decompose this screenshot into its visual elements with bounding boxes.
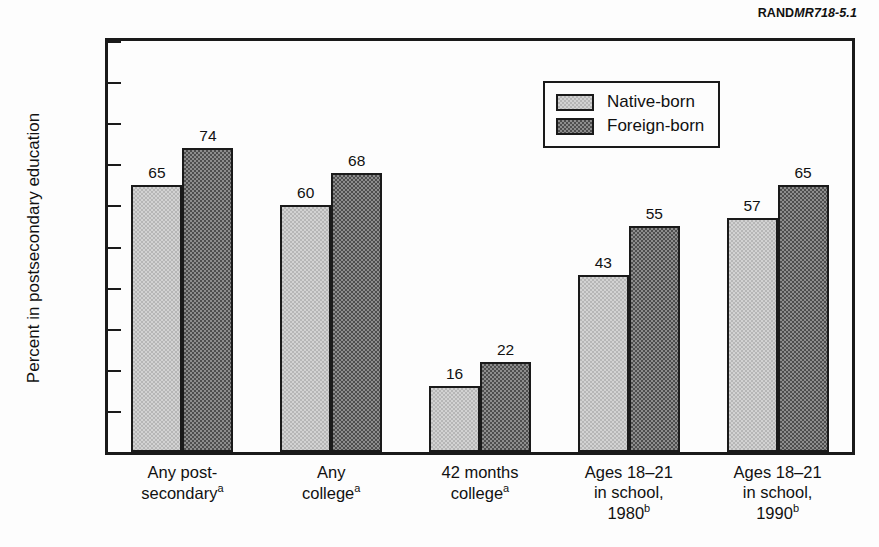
bar-value-label: 22	[466, 342, 545, 358]
plot-area: 1009080706050403020100 65746068162243555…	[105, 38, 855, 455]
footnote-marker: b	[644, 502, 650, 514]
footnote-marker: b	[793, 502, 799, 514]
bar-foreign-born-group-5	[778, 185, 829, 452]
bar-native-born-group-5	[727, 218, 778, 452]
bar-foreign-born-group-3	[480, 362, 531, 452]
legend-swatch-light	[556, 94, 594, 111]
chart-legend: Native-bornForeign-born	[543, 81, 720, 148]
legend-label: Foreign-born	[607, 116, 704, 136]
y-tick-20	[108, 370, 121, 372]
y-tick-80	[108, 123, 121, 125]
figure-bar-chart: RANDMR718-5.1 Percent in postsecondary e…	[0, 0, 879, 547]
x-axis-label-group-3: 42 monthscollegea	[395, 462, 565, 503]
y-tick-60	[108, 205, 121, 207]
footnote-marker: a	[217, 482, 223, 494]
y-tick-50	[108, 247, 121, 249]
figure-id-suffix: MR718-5.1	[794, 6, 857, 20]
bar-value-label: 74	[168, 128, 247, 144]
bar-foreign-born-group-4	[629, 226, 680, 452]
legend-label: Native-born	[607, 92, 695, 112]
y-tick-100	[108, 41, 121, 43]
bar-native-born-group-1	[131, 185, 182, 452]
bar-native-born-group-4	[578, 275, 629, 452]
figure-id-stamp: RANDMR718-5.1	[758, 6, 857, 20]
legend-item-foreign-born: Foreign-born	[556, 114, 704, 138]
y-tick-30	[108, 329, 121, 331]
figure-id-prefix: RAND	[758, 6, 795, 20]
footnote-marker: a	[503, 482, 509, 494]
legend-swatch-dark	[556, 118, 594, 135]
bar-native-born-group-3	[429, 386, 480, 452]
x-axis-label-group-1: Any post-secondarya	[97, 462, 267, 503]
y-tick-10	[108, 411, 121, 413]
y-tick-90	[108, 82, 121, 84]
y-tick-0	[108, 452, 121, 454]
y-axis-title: Percent in postsecondary education	[24, 18, 44, 478]
y-tick-40	[108, 288, 121, 290]
bar-foreign-born-group-2	[331, 173, 382, 452]
bar-foreign-born-group-1	[182, 148, 233, 452]
x-axis-label-group-2: Anycollegea	[246, 462, 416, 503]
bar-native-born-group-2	[280, 205, 331, 452]
bar-value-label: 68	[317, 153, 396, 169]
bar-value-label: 65	[764, 165, 843, 181]
plot-inner: 1009080706050403020100 65746068162243555…	[108, 41, 852, 452]
footnote-marker: a	[354, 482, 360, 494]
x-axis-label-group-4: Ages 18–21in school,1980b	[544, 462, 714, 523]
legend-item-native-born: Native-born	[556, 90, 704, 114]
x-axis-label-group-5: Ages 18–21in school,1990b	[693, 462, 863, 523]
bar-value-label: 55	[615, 206, 694, 222]
